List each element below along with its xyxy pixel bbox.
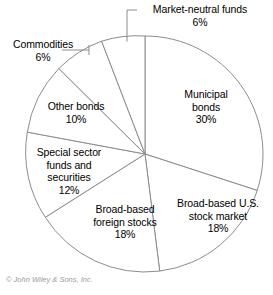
- pie-label-special-sector-funds-line3: securities: [22, 171, 116, 184]
- pie-label-special-sector-funds: Special sector funds and securities 12%: [22, 146, 116, 196]
- pie-label-foreign-stocks-line1: Broad-based: [73, 203, 177, 216]
- pie-label-other-bonds-line1: Other bonds: [33, 100, 119, 113]
- pie-label-us-stock-market-line2: stock market: [166, 210, 270, 223]
- pie-label-other-bonds-percent: 10%: [33, 113, 119, 126]
- pie-chart-figure: Municipal bonds 30% Broad-based U.S. sto…: [0, 0, 273, 295]
- pie-label-foreign-stocks-line2: foreign stocks: [73, 216, 177, 229]
- pie-label-municipal-bonds-line1: Municipal: [168, 88, 244, 101]
- pie-label-other-bonds: Other bonds 10%: [33, 100, 119, 125]
- pie-label-commodities-percent: 6%: [2, 51, 84, 64]
- pie-label-commodities: Commodities 6%: [2, 38, 84, 63]
- pie-label-municipal-bonds-percent: 30%: [168, 113, 244, 126]
- pie-label-commodities-line1: Commodities: [2, 38, 84, 51]
- pie-label-foreign-stocks-percent: 18%: [73, 228, 177, 241]
- pie-label-special-sector-funds-line2: funds and: [22, 159, 116, 172]
- pie-label-special-sector-funds-percent: 12%: [22, 184, 116, 197]
- pie-label-foreign-stocks: Broad-based foreign stocks 18%: [73, 203, 177, 241]
- pie-label-special-sector-funds-line1: Special sector: [22, 146, 116, 159]
- pie-label-market-neutral-funds: Market-neutral funds 6%: [130, 3, 270, 28]
- pie-label-us-stock-market: Broad-based U.S. stock market 18%: [166, 197, 270, 235]
- pie-label-us-stock-market-percent: 18%: [166, 222, 270, 235]
- pie-label-municipal-bonds: Municipal bonds 30%: [168, 88, 244, 126]
- pie-label-market-neutral-funds-line1: Market-neutral funds: [130, 3, 270, 16]
- pie-label-us-stock-market-line1: Broad-based U.S.: [166, 197, 270, 210]
- pie-label-market-neutral-funds-percent: 6%: [130, 16, 270, 29]
- copyright-notice: © John Wiley & Sons, Inc.: [6, 275, 93, 284]
- pie-label-municipal-bonds-line2: bonds: [168, 101, 244, 114]
